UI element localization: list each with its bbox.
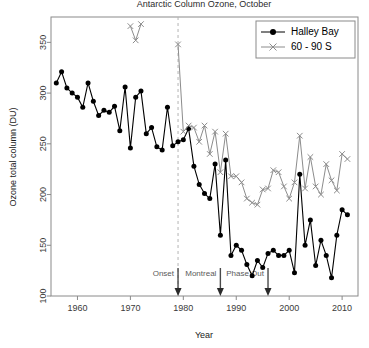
data-point <box>345 156 351 162</box>
data-point <box>281 184 287 190</box>
legend-label-halley-bay: Halley Bay <box>291 26 339 37</box>
data-point <box>128 145 133 150</box>
data-point <box>334 233 339 238</box>
data-point <box>292 270 297 275</box>
data-point <box>308 217 313 222</box>
y-axis-ticks: 100150200250300350 <box>38 35 51 304</box>
x-tick-label: 1980 <box>173 303 193 313</box>
data-point <box>196 139 202 145</box>
data-point <box>223 158 228 163</box>
data-point <box>303 243 308 248</box>
data-point <box>244 262 249 267</box>
series-halley-bay <box>54 69 350 280</box>
data-point <box>239 248 244 253</box>
data-point <box>160 147 165 152</box>
data-point <box>133 95 138 100</box>
data-point <box>64 86 69 91</box>
data-point <box>165 105 170 110</box>
data-point <box>255 202 261 208</box>
ozone-line-chart: Antarctic Column Ozone, October 10015020… <box>0 0 369 348</box>
chart-title-group: Antarctic Column Ozone, October <box>137 0 272 9</box>
data-point <box>340 207 345 212</box>
data-point <box>91 99 96 104</box>
data-point <box>96 113 101 118</box>
data-point <box>191 125 197 131</box>
data-point <box>128 23 134 29</box>
data-point <box>181 137 186 142</box>
y-tick-label: 300 <box>38 86 48 101</box>
data-point <box>271 248 276 253</box>
data-point <box>138 89 143 94</box>
data-point <box>170 143 175 148</box>
chart-title: Antarctic Column Ozone, October <box>137 0 272 9</box>
data-point <box>144 131 149 136</box>
data-point <box>70 91 75 96</box>
legend-label-60-90-s: 60 - 90 S <box>291 41 332 52</box>
y-tick-label: 150 <box>38 238 48 253</box>
data-point <box>107 110 112 115</box>
data-point <box>59 69 64 74</box>
data-point <box>123 85 128 90</box>
annotation-arrow-head <box>217 288 224 296</box>
x-tick-label: 2010 <box>332 303 352 313</box>
data-point <box>213 162 218 167</box>
data-point <box>154 144 159 149</box>
data-point <box>112 104 117 109</box>
annotation-arrow-head <box>175 288 182 296</box>
data-point <box>239 180 245 186</box>
annotation-label: Onset <box>153 269 175 278</box>
x-axis-ticks: 196019701980199020002010 <box>67 296 352 313</box>
plot-frame <box>51 17 358 296</box>
data-point <box>207 196 212 201</box>
data-point <box>234 243 239 248</box>
data-point <box>313 263 318 268</box>
data-point <box>266 251 271 256</box>
data-point <box>149 125 154 130</box>
data-point <box>324 253 329 258</box>
data-point <box>228 253 233 258</box>
data-point <box>80 105 85 110</box>
annotation-label: Montreal <box>185 269 216 278</box>
data-point <box>329 178 335 184</box>
data-point <box>249 200 255 206</box>
y-tick-label: 100 <box>38 288 48 303</box>
data-point <box>345 212 350 217</box>
data-point <box>138 21 144 27</box>
data-point <box>101 108 106 113</box>
data-point <box>255 258 260 263</box>
data-series-group <box>54 21 350 280</box>
chart-figure: Antarctic Column Ozone, October 10015020… <box>0 0 369 348</box>
data-point <box>86 80 91 85</box>
data-point <box>318 238 323 243</box>
y-tick-label: 200 <box>38 187 48 202</box>
data-point <box>54 80 59 85</box>
data-point <box>191 164 196 169</box>
data-point <box>117 128 122 133</box>
data-point <box>218 233 223 238</box>
data-point <box>176 139 181 144</box>
data-point <box>281 253 286 258</box>
data-point <box>250 273 255 278</box>
data-point <box>197 182 202 187</box>
y-axis-label: Ozone total column (DU) <box>8 107 18 206</box>
data-point <box>297 172 302 177</box>
data-point <box>286 196 292 202</box>
chart-legend: Halley Bay 60 - 90 S <box>256 21 355 58</box>
filled-circle-icon <box>270 29 276 35</box>
data-point <box>329 275 334 280</box>
data-point <box>202 191 207 196</box>
data-point <box>244 196 250 202</box>
annotation-label: Phase Out <box>226 269 265 278</box>
x-axis-label: Year <box>195 330 213 340</box>
x-tick-label: 2000 <box>279 303 299 313</box>
x-tick-label: 1970 <box>120 303 140 313</box>
data-point <box>75 95 80 100</box>
series-line <box>130 24 141 40</box>
data-point <box>287 248 292 253</box>
data-point <box>276 169 282 175</box>
x-tick-label: 1990 <box>226 303 246 313</box>
data-point <box>271 167 277 173</box>
y-tick-label: 250 <box>38 136 48 151</box>
annotation-arrow-head <box>265 288 272 296</box>
y-tick-label: 350 <box>38 35 48 50</box>
